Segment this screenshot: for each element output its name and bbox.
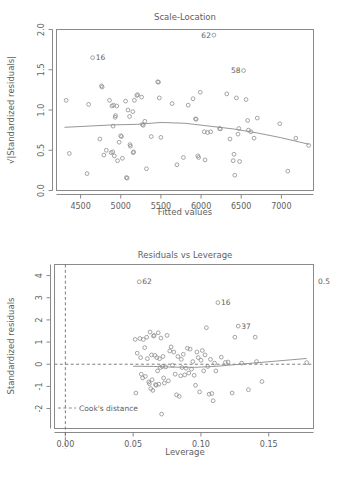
data-point (161, 355, 165, 359)
data-point (305, 361, 309, 365)
y-tick-label: -2 (35, 405, 44, 413)
data-point (186, 103, 190, 107)
data-point (162, 376, 166, 380)
data-point (235, 96, 239, 100)
data-point (117, 140, 121, 144)
data-point (126, 108, 130, 112)
data-point (140, 95, 144, 99)
data-point (87, 102, 91, 106)
data-point (149, 135, 153, 139)
data-point (148, 330, 152, 334)
data-point (246, 119, 250, 123)
data-point (173, 372, 177, 376)
data-point (112, 154, 116, 158)
data-point (294, 136, 298, 140)
x-tick-label: 6500 (231, 202, 251, 211)
data-point (214, 369, 218, 373)
data-point (175, 163, 179, 167)
data-point (231, 159, 235, 163)
x-axis-title: Fitted values (158, 207, 213, 217)
data-point (157, 96, 161, 100)
data-point (191, 360, 195, 364)
data-point (159, 135, 163, 139)
point-annotation-group: 621637 (142, 277, 251, 330)
data-point (242, 69, 246, 73)
data-point (169, 345, 173, 349)
data-point (120, 156, 124, 160)
scale-location-svg: Scale-Location 4500500055006000650070000… (0, 0, 346, 240)
y-tick-label: 3 (35, 295, 44, 300)
y-axis-title: √|Standardized residuals| (6, 56, 16, 164)
data-point (137, 280, 141, 284)
data-point (145, 357, 149, 361)
x-tick-label: 0.05 (124, 440, 142, 449)
data-point (160, 412, 164, 416)
y-tick-label: 0.5 (37, 144, 46, 157)
data-point (100, 85, 104, 89)
data-point (139, 372, 143, 376)
data-point (209, 357, 213, 361)
data-point (133, 338, 137, 342)
data-point (286, 169, 290, 173)
y-axis-title: Standardized residuals (6, 297, 16, 394)
point-label: 16 (96, 53, 106, 62)
scale-location-title-group: Scale-Location (154, 12, 216, 22)
data-point (236, 324, 240, 328)
point-label: 58 (231, 66, 241, 75)
x-tick-label: 5000 (111, 202, 131, 211)
data-point (213, 361, 217, 365)
data-point (194, 383, 198, 387)
data-point (195, 350, 199, 354)
data-point (255, 116, 259, 120)
data-point (85, 172, 89, 176)
data-point (168, 349, 172, 353)
data-point (98, 137, 102, 141)
data-point (183, 373, 187, 377)
data-point (230, 391, 234, 395)
data-point (226, 360, 230, 364)
cooks-contour-value-label: 0.5 (318, 277, 330, 286)
data-point (176, 355, 180, 359)
data-point (233, 335, 237, 339)
tick-label-group: 0.000.050.100.15-2-101234 (35, 273, 278, 448)
tick-group (49, 30, 282, 199)
data-point (204, 326, 208, 330)
data-point (179, 374, 183, 378)
data-point (192, 373, 196, 377)
data-point (167, 379, 171, 383)
chart-title: Scale-Location (154, 12, 216, 22)
point-annotation-group: 621658 (96, 31, 241, 75)
data-point (134, 391, 138, 395)
data-point (203, 353, 207, 357)
data-point (67, 152, 71, 156)
data-point (156, 331, 160, 335)
data-point (162, 381, 166, 385)
tick-label-group: 4500500055006000650070000.00.51.01.52.0 (37, 23, 292, 210)
data-point (64, 98, 68, 102)
cooks-distance-legend: Cook's distance (58, 404, 138, 413)
loess-smoother-group (65, 122, 309, 144)
data-point (247, 388, 251, 392)
data-point (145, 335, 149, 339)
data-point (181, 352, 185, 356)
data-point (150, 378, 154, 382)
data-point (199, 358, 203, 362)
loess-curve (65, 122, 309, 144)
data-point (200, 349, 204, 353)
y-tick-label: 2.0 (37, 23, 46, 36)
data-point (108, 98, 112, 102)
data-point (278, 122, 282, 126)
y-tick-label: 4 (35, 273, 44, 278)
x-axis-title: Leverage (165, 447, 204, 457)
data-point (253, 335, 257, 339)
chart-title: Residuals vs Leverage (138, 250, 233, 260)
data-point (212, 33, 216, 37)
data-point (172, 350, 176, 354)
data-point (159, 336, 163, 340)
data-point (252, 136, 256, 140)
cooks-distance-legend-label: Cook's distance (79, 404, 138, 413)
data-point (143, 119, 147, 123)
data-point (219, 355, 223, 359)
data-point (191, 97, 195, 101)
point-label: 62 (142, 277, 152, 286)
